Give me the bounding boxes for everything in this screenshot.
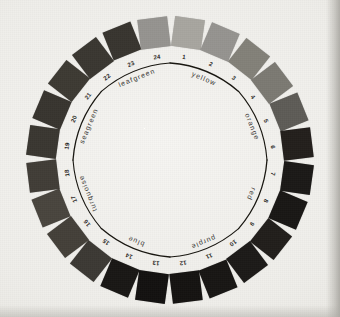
- swatch-number: 12: [173, 256, 192, 270]
- color-swatch: [26, 159, 59, 192]
- color-swatch: [26, 125, 60, 159]
- color-wheel-figure: 123456789101112131415161718192021222324 …: [0, 0, 340, 317]
- swatch-number: 19: [60, 136, 74, 155]
- color-swatch: [135, 270, 169, 304]
- swatch-number: 24: [148, 50, 167, 64]
- plate-speck: [144, 128, 145, 129]
- color-wheel: 123456789101112131415161718192021222324 …: [0, 0, 340, 317]
- color-swatch: [169, 270, 202, 303]
- swatch-number: 1: [175, 50, 194, 64]
- color-swatch: [138, 16, 171, 49]
- color-swatch: [280, 161, 314, 195]
- swatch-number: 7: [266, 165, 280, 184]
- swatch-number: 18: [60, 163, 74, 182]
- color-swatch: [171, 16, 205, 50]
- swatch-number: 13: [146, 256, 165, 270]
- swatch-number: 6: [266, 138, 280, 157]
- color-swatch: [280, 128, 313, 161]
